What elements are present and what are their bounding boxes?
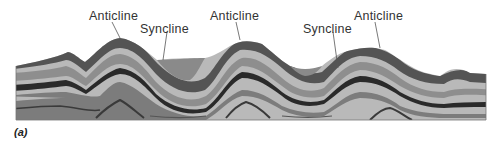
fold-diagram: Anticline Syncline Anticline Syncline An… <box>0 0 503 149</box>
label-anticline-2: Anticline <box>210 9 259 23</box>
leader-line-syncline-1 <box>163 32 167 60</box>
label-anticline-1: Anticline <box>89 9 138 23</box>
figure-caption: (a) <box>14 126 27 138</box>
label-syncline-1: Syncline <box>140 22 189 36</box>
label-syncline-2: Syncline <box>303 22 352 36</box>
label-anticline-3: Anticline <box>354 9 403 23</box>
leader-line-anticline-3 <box>375 22 380 48</box>
leader-line-anticline-2 <box>236 22 240 40</box>
leader-line-anticline-1 <box>112 22 120 38</box>
